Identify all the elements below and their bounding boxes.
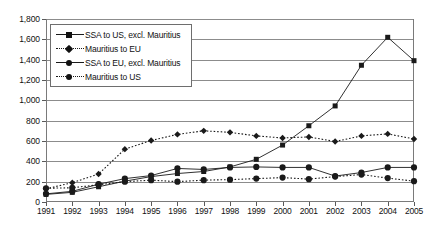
x-tick-mark [414,202,415,206]
y-tick-label: 1,600 [0,34,40,44]
line-chart: 02004006008001,0001,2001,4001,6001,800 1… [0,0,431,234]
y-tick-mark [42,161,46,162]
gridline [47,161,413,162]
diamond-marker-icon [65,44,73,52]
legend-key-mauritius-to-eu [55,42,85,56]
x-tick-mark [361,202,362,206]
y-tick-label: 400 [0,156,40,166]
y-tick-label: 1,200 [0,75,40,85]
y-tick-mark [42,80,46,81]
x-tick-label: 2005 [399,206,429,216]
x-tick-mark [46,202,47,206]
gridline [47,19,413,20]
gridline [47,121,413,122]
y-tick-mark [42,19,46,20]
y-tick-mark [42,121,46,122]
y-tick-label: 600 [0,136,40,146]
x-tick-mark [388,202,389,206]
y-tick-mark [42,141,46,142]
legend-key-ssa-to-eu [55,56,85,70]
legend-label-mauritius-to-eu: Mauritius to EU [85,42,141,56]
gridline [47,100,413,101]
legend: SSA to US, excl. Mauritius Mauritius to … [50,24,192,87]
circle-marker-icon [66,60,72,66]
gridline [47,141,413,142]
x-tick-mark [309,202,310,206]
y-tick-label: 200 [0,177,40,187]
x-tick-mark [283,202,284,206]
y-tick-label: 1,400 [0,55,40,65]
y-tick-mark [42,60,46,61]
legend-label-mauritius-to-us: Mauritius to US [85,70,141,84]
y-tick-mark [42,182,46,183]
legend-label-ssa-to-eu: SSA to EU, excl. Mauritius [85,56,180,70]
legend-item-ssa-to-us[interactable]: SSA to US, excl. Mauritius [55,28,187,42]
x-tick-mark [230,202,231,206]
legend-key-ssa-to-us [55,28,85,42]
legend-label-ssa-to-us: SSA to US, excl. Mauritius [85,28,180,42]
x-tick-mark [204,202,205,206]
circle-marker-icon [66,74,72,80]
y-tick-label: 1,800 [0,14,40,24]
legend-item-mauritius-to-eu[interactable]: Mauritius to EU [55,42,187,56]
y-tick-mark [42,39,46,40]
x-tick-mark [151,202,152,206]
y-tick-mark [42,100,46,101]
x-tick-mark [335,202,336,206]
x-tick-mark [177,202,178,206]
x-tick-mark [72,202,73,206]
legend-key-mauritius-to-us [55,70,85,84]
legend-item-mauritius-to-us[interactable]: Mauritius to US [55,70,187,84]
gridline [47,182,413,183]
x-tick-mark [125,202,126,206]
x-tick-mark [99,202,100,206]
y-tick-label: 1,000 [0,95,40,105]
x-tick-mark [256,202,257,206]
square-marker-icon [66,32,72,38]
y-tick-label: 800 [0,116,40,126]
legend-item-ssa-to-eu[interactable]: SSA to EU, excl. Mauritius [55,56,187,70]
